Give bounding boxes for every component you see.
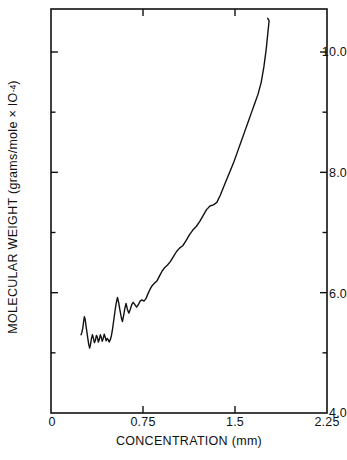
plot-frame [51,9,327,413]
tick-marks-group [51,9,327,413]
plot-area [0,0,347,460]
figure-container: MOLECULAR WEIGHT (grams/mole × IO-4) 10.… [0,0,347,460]
data-curve-line [81,18,269,348]
